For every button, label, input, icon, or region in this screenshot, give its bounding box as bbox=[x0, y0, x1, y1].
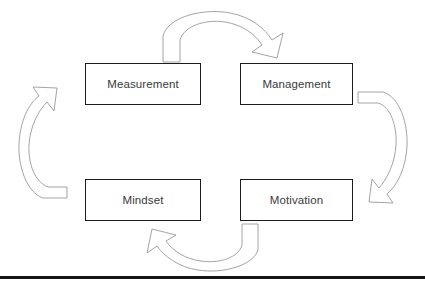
arrow-motivation-to-mindset bbox=[147, 224, 258, 271]
arrow-management-to-motivation bbox=[358, 92, 407, 203]
node-motivation[interactable]: Motivation bbox=[240, 179, 353, 221]
node-mindset[interactable]: Mindset bbox=[85, 179, 201, 221]
node-measurement-label: Measurement bbox=[107, 78, 178, 90]
node-management-label: Management bbox=[262, 78, 330, 90]
arrow-measurement-to-management bbox=[163, 12, 283, 62]
node-mindset-label: Mindset bbox=[123, 194, 164, 206]
bottom-divider-rule bbox=[0, 276, 425, 279]
arrow-mindset-to-measurement bbox=[19, 87, 67, 198]
node-management[interactable]: Management bbox=[240, 63, 353, 105]
node-motivation-label: Motivation bbox=[270, 194, 323, 206]
node-measurement[interactable]: Measurement bbox=[85, 63, 201, 105]
diagram-canvas bbox=[0, 0, 425, 290]
